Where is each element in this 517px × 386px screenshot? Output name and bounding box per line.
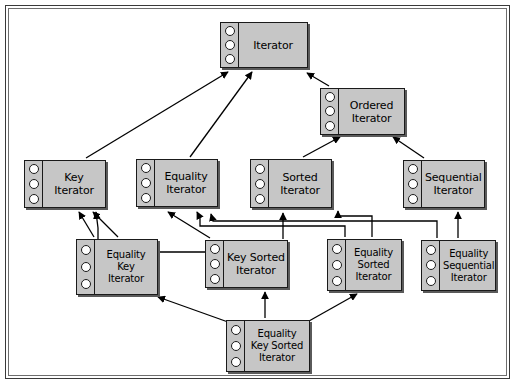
port-circle-icon[interactable] [29,179,39,189]
node-sequential-iterator[interactable]: SequentialIterator [403,160,485,208]
port-circle-icon[interactable] [81,245,91,255]
node-ordered-iterator[interactable]: OrderedIterator [320,88,405,135]
port-circle-icon[interactable] [408,194,418,204]
edge-equality-sorted-iterator-to-equality-iterator [197,212,345,237]
edge-equality-key-sorted-iterator-to-equality-sorted-iterator [309,294,357,321]
node-label: OrderedIterator [339,89,404,134]
node-ports [227,321,245,371]
node-label-line: Key [117,261,135,273]
node-label: EqualitySequentialIterator [440,241,497,290]
port-circle-icon[interactable] [81,262,91,272]
node-label-line: Iterator [253,39,293,52]
edge-equality-sorted-iterator-to-sorted-iterator [338,211,372,237]
node-label-line: Sorted [358,259,390,271]
node-label-line: Ordered [350,99,393,112]
node-label-line: Equality [258,328,297,340]
port-circle-icon[interactable] [210,259,220,269]
port-circle-icon[interactable] [81,279,91,289]
port-circle-icon[interactable] [325,106,335,116]
edge-equality-iterator-to-iterator [190,72,252,157]
node-ports [77,240,95,294]
port-circle-icon[interactable] [325,121,335,131]
node-label-line: Iterator [356,271,392,283]
node-ports [422,241,440,290]
port-circle-icon[interactable] [210,244,220,254]
node-equality-key-iterator[interactable]: EqualityKeyIterator [76,239,158,295]
node-label-line: Iterator [259,352,295,364]
node-label-line: Sorted [282,171,317,184]
node-iterator[interactable]: Iterator [220,22,308,68]
node-ports [251,160,269,207]
port-circle-icon[interactable] [225,54,235,64]
edge-equality-key-iterator-to-key-iterator [79,212,94,237]
node-label-line: Iterator [451,272,487,284]
port-circle-icon[interactable] [426,245,436,255]
node-key-iterator[interactable]: KeyIterator [24,160,106,208]
edge-key-iterator-to-iterator [86,72,228,158]
port-circle-icon[interactable] [231,357,241,367]
port-circle-icon[interactable] [332,244,342,254]
port-circle-icon[interactable] [426,260,436,270]
node-label-line: Key [64,171,83,184]
node-key-sorted-iterator[interactable]: Key SortedIterator [205,240,288,288]
port-circle-icon[interactable] [408,179,418,189]
node-label-line: Key Sorted [227,251,285,264]
node-label-line: Iterator [166,183,206,196]
node-label-line: Equality [165,170,208,183]
node-label-line: Equality [107,249,146,261]
port-circle-icon[interactable] [141,193,151,203]
node-label-line: Iterator [352,112,392,125]
edge-ordered-iterator-to-iterator [307,73,329,86]
node-label-line: Iterator [280,184,320,197]
node-label-line: Iterator [54,184,94,197]
node-ports [137,160,155,206]
port-circle-icon[interactable] [255,164,265,174]
node-equality-iterator[interactable]: EqualityIterator [136,159,218,207]
node-ports [206,241,224,287]
port-circle-icon[interactable] [255,194,265,204]
port-circle-icon[interactable] [332,260,342,270]
port-circle-icon[interactable] [29,164,39,174]
port-circle-icon[interactable] [325,92,335,102]
edge-equality-key-sorted-iterator-to-equality-key-iterator [158,297,228,322]
diagram-canvas: IteratorOrderedIteratorKeyIteratorEquali… [0,0,517,386]
node-equality-sequential-iterator[interactable]: EqualitySequentialIterator [421,240,496,291]
node-ports [221,23,239,67]
port-circle-icon[interactable] [231,325,241,335]
node-label-line: Iterator [108,273,144,285]
node-ports [25,161,43,207]
node-label-line: Sequential [425,171,482,184]
node-label: EqualityKeyIterator [95,240,157,294]
node-label: EqualitySortedIterator [346,240,401,290]
node-label-line: Equality [354,247,393,259]
port-circle-icon[interactable] [426,276,436,286]
port-circle-icon[interactable] [141,178,151,188]
node-equality-sorted-iterator[interactable]: EqualitySortedIterator [327,239,402,291]
port-circle-icon[interactable] [332,276,342,286]
node-label-line: Iterator [236,264,276,277]
port-circle-icon[interactable] [29,194,39,204]
node-label: EqualityKey SortedIterator [245,321,309,371]
node-label-line: Key Sorted [251,340,303,352]
port-circle-icon[interactable] [255,179,265,189]
node-label: SortedIterator [269,160,331,207]
port-circle-icon[interactable] [225,40,235,50]
edge-sequential-iterator-to-ordered-iterator [393,137,424,158]
node-label: EqualityIterator [155,160,217,206]
node-label-line: Equality [449,248,488,260]
port-circle-icon[interactable] [231,341,241,351]
node-ports [321,89,339,134]
node-label-line: Iterator [434,184,474,197]
node-equality-key-sorted-iterator[interactable]: EqualityKey SortedIterator [226,320,310,372]
node-label: Key SortedIterator [224,241,288,287]
port-circle-icon[interactable] [225,26,235,36]
edge-key-sorted-iterator-to-equality-iterator [168,212,210,238]
node-label-line: Sequential [443,260,494,272]
node-label: Iterator [239,23,307,67]
port-circle-icon[interactable] [141,163,151,173]
port-circle-icon[interactable] [408,164,418,174]
node-sorted-iterator[interactable]: SortedIterator [250,159,332,208]
port-circle-icon[interactable] [210,274,220,284]
node-label: SequentialIterator [422,161,485,207]
edge-sorted-iterator-to-ordered-iterator [303,137,340,157]
